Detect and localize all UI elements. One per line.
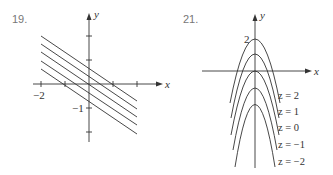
x-axis-label: x xyxy=(313,65,319,77)
y-tick-label: −1 xyxy=(72,102,84,114)
x-axis-arrow-icon xyxy=(156,82,163,87)
level-label: z = −1 xyxy=(278,139,305,150)
x-axis-label: x xyxy=(164,78,170,90)
y-tick-label: 2 xyxy=(244,33,250,45)
y-axis-arrow-icon xyxy=(87,13,92,20)
level-label: z = 0 xyxy=(278,122,299,133)
y-axis-label: y xyxy=(259,9,265,21)
level-label: z = 1 xyxy=(278,106,299,117)
y-axis-arrow-icon xyxy=(253,14,258,21)
level-label: z = −2 xyxy=(278,156,305,167)
x-tick-label: −2 xyxy=(33,89,45,101)
plots: y x −2 −1 y x 2 z = 2 z = 1 z = 0 z = −1… xyxy=(0,0,333,175)
plot-19 xyxy=(33,13,163,142)
x-axis-arrow-icon xyxy=(305,69,312,74)
y-axis-label: y xyxy=(93,8,99,20)
level-label: z = 2 xyxy=(278,90,299,101)
